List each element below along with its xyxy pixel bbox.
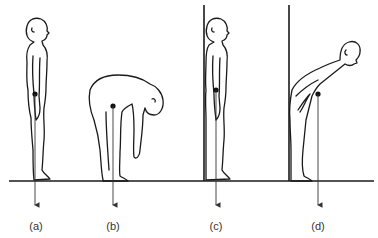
figure-b-bending xyxy=(89,75,163,205)
label-a: (a) xyxy=(29,220,42,232)
label-b: (b) xyxy=(106,220,119,232)
label-d: (d) xyxy=(311,220,324,232)
figure-a-standing xyxy=(26,18,50,205)
label-c: (c) xyxy=(210,220,223,232)
posture-diagram xyxy=(0,0,378,238)
figure-c-standing-wall xyxy=(206,18,230,205)
